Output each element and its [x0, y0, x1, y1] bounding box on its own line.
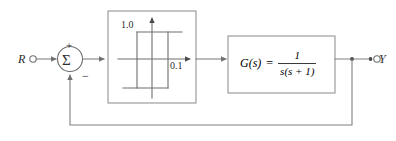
input-terminal-icon [30, 56, 36, 62]
block-diagram-figure: R Y + − Σ 1.0 0.1 G(s) = 1 s(s + 1) [0, 0, 396, 141]
plant-transfer-function: G(s) = 1 s(s + 1) [240, 49, 316, 77]
sum-plus-sign: + [66, 40, 72, 51]
relay-lower-level-label: 0.1 [170, 61, 183, 71]
plant-equals-sign: = [266, 56, 273, 71]
sum-minus-sign: − [82, 70, 89, 82]
relay-upper-level-label: 1.0 [121, 20, 134, 30]
plant-function-name: G(s) [240, 56, 261, 71]
output-signal-label: Y [379, 53, 386, 65]
sum-sigma-symbol: Σ [62, 53, 71, 68]
input-signal-label: R [18, 53, 25, 65]
output-terminal-dot [369, 57, 373, 61]
plant-denominator: s(s + 1) [278, 64, 316, 78]
plant-fraction: 1 s(s + 1) [278, 49, 316, 77]
diagram-canvas [0, 0, 396, 141]
plant-numerator: 1 [291, 49, 305, 63]
